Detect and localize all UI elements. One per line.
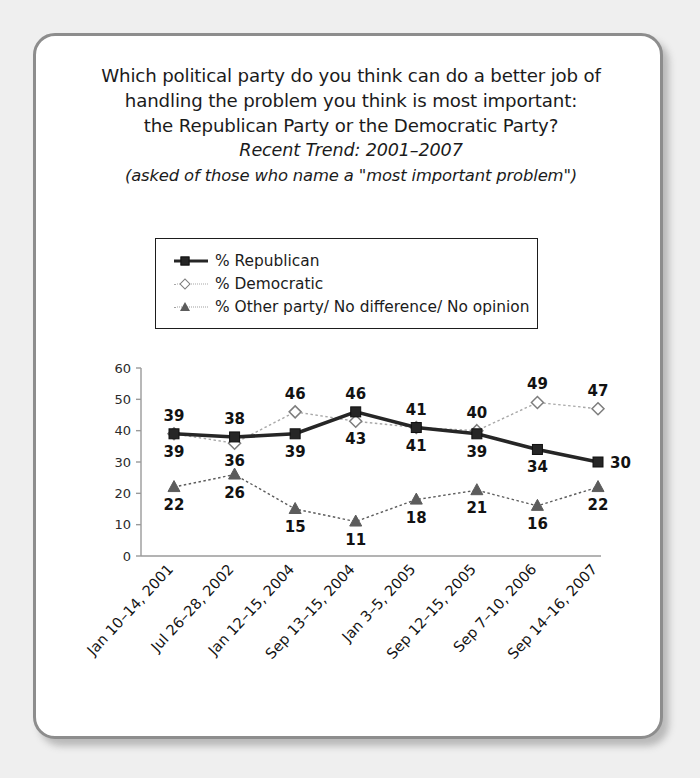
marker-diamond-icon xyxy=(592,403,604,415)
marker-square-icon xyxy=(411,423,421,433)
data-label: 49 xyxy=(527,375,548,393)
legend-item-democratic: % Democratic xyxy=(156,272,537,295)
data-label: 41 xyxy=(406,401,427,419)
data-point xyxy=(410,493,422,504)
data-label: 47 xyxy=(588,382,609,400)
data-point xyxy=(411,423,421,433)
data-point xyxy=(471,425,483,437)
data-point xyxy=(592,403,604,415)
data-point xyxy=(351,407,361,417)
data-point xyxy=(169,429,179,439)
marker-diamond-icon xyxy=(168,428,180,440)
data-label: 38 xyxy=(224,410,245,428)
data-label: 36 xyxy=(224,452,245,470)
legend-label-republican: % Republican xyxy=(215,252,319,270)
data-point xyxy=(229,437,241,449)
marker-triangle-icon xyxy=(289,503,301,514)
y-tick-label: 50 xyxy=(114,392,131,407)
data-label: 34 xyxy=(527,458,548,476)
marker-square-icon xyxy=(472,429,482,439)
marker-diamond-icon xyxy=(471,425,483,437)
data-label: 15 xyxy=(285,518,306,536)
title-line-2: handling the problem you think is most i… xyxy=(36,88,666,113)
y-axis: 0102030405060 xyxy=(114,361,141,564)
legend-item-republican: % Republican xyxy=(156,249,537,272)
data-point xyxy=(168,428,180,440)
y-tick-label: 0 xyxy=(123,549,131,564)
data-label: 41 xyxy=(406,437,427,455)
x-tick-label: Jan 12–15, 2004 xyxy=(204,560,298,659)
data-point xyxy=(410,422,422,434)
marker-square-icon xyxy=(532,444,542,454)
data-point xyxy=(592,481,604,492)
x-tick-label: Sep 7–10, 2006 xyxy=(450,560,540,655)
series-line xyxy=(174,412,598,462)
data-point xyxy=(230,432,240,442)
data-label: 39 xyxy=(285,443,306,461)
title-line-3: the Republican Party or the Democratic P… xyxy=(36,113,666,138)
marker-triangle-icon xyxy=(350,515,362,526)
data-point xyxy=(532,444,542,454)
data-point xyxy=(350,415,362,427)
chart-note: (asked of those who name a "most importa… xyxy=(36,163,666,188)
data-point xyxy=(471,484,483,495)
legend-label-other: % Other party/ No difference/ No opinion xyxy=(215,298,530,316)
title-line-1: Which political party do you think can d… xyxy=(36,63,666,88)
data-label: 16 xyxy=(527,515,548,533)
marker-square-icon xyxy=(290,429,300,439)
data-label: 26 xyxy=(224,484,245,502)
x-tick-label: Sep 13–15, 2004 xyxy=(262,560,358,662)
y-tick-label: 20 xyxy=(114,486,131,501)
data-label: 39 xyxy=(466,443,487,461)
marker-diamond-icon xyxy=(410,422,422,434)
chart-title-block: Which political party do you think can d… xyxy=(36,63,666,188)
screenshot-root: Which political party do you think can d… xyxy=(0,0,700,778)
legend-marker-democratic-icon xyxy=(172,275,210,293)
marker-triangle-icon xyxy=(531,499,543,510)
y-tick-label: 10 xyxy=(114,517,131,532)
marker-diamond-icon xyxy=(229,437,241,449)
x-tick-label: Jan 10–14, 2001 xyxy=(83,560,177,659)
data-label: 22 xyxy=(588,496,609,514)
data-point xyxy=(350,515,362,526)
marker-square-icon xyxy=(169,429,179,439)
x-tick-labels: Jan 10–14, 2001Jul 26–28, 2002Jan 12–15,… xyxy=(83,560,601,662)
y-tick-label: 60 xyxy=(114,361,131,376)
marker-triangle-icon xyxy=(471,484,483,495)
data-point xyxy=(593,457,603,467)
x-tick-label: Sep 12–15, 2005 xyxy=(383,560,479,662)
legend-item-other: % Other party/ No difference/ No opinion xyxy=(156,295,537,318)
data-label: 43 xyxy=(345,430,366,448)
x-tick-label: Jul 26–28, 2002 xyxy=(147,560,237,655)
data-point xyxy=(289,406,301,418)
data-label: 39 xyxy=(164,407,185,425)
chart-legend: % Republican % Democratic % Other party/… xyxy=(155,238,538,329)
marker-diamond-icon xyxy=(289,406,301,418)
y-tick-label: 30 xyxy=(114,455,131,470)
data-point xyxy=(472,429,482,439)
data-point xyxy=(229,468,241,479)
marker-diamond-icon xyxy=(531,396,543,408)
x-tick-label: Sep 14–16, 2007 xyxy=(504,560,600,662)
data-label: 46 xyxy=(285,385,306,403)
data-point xyxy=(289,503,301,514)
legend-label-democratic: % Democratic xyxy=(215,275,323,293)
data-point xyxy=(168,481,180,492)
marker-triangle-icon xyxy=(592,481,604,492)
data-label: 30 xyxy=(610,454,631,472)
data-label: 18 xyxy=(406,509,427,527)
data-labels-layer: 3936464341404947222615111821162239383946… xyxy=(164,375,631,548)
legend-marker-republican-icon xyxy=(172,252,210,270)
data-label: 22 xyxy=(164,496,185,514)
data-label: 40 xyxy=(466,404,487,422)
series-layer xyxy=(168,396,604,526)
marker-triangle-icon xyxy=(229,468,241,479)
data-point xyxy=(290,429,300,439)
chart-card: Which political party do you think can d… xyxy=(33,33,663,739)
marker-triangle-icon xyxy=(168,481,180,492)
x-tick-label: Jan 3–5, 2005 xyxy=(338,560,419,645)
marker-diamond-icon xyxy=(350,415,362,427)
marker-square-icon xyxy=(230,432,240,442)
data-label: 39 xyxy=(164,443,185,461)
marker-triangle-icon xyxy=(410,493,422,504)
